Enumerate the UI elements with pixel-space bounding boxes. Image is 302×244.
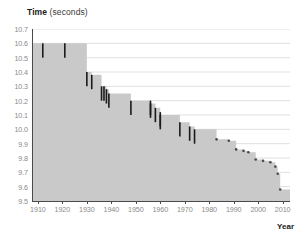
- y-axis-tick-label: 10.7: [2, 25, 28, 34]
- record-progression-chart: [33, 29, 290, 201]
- record-point: [274, 165, 277, 168]
- y-axis-tick-label: 10.1: [2, 111, 28, 120]
- chart-title-bold: Time: [27, 7, 47, 17]
- x-axis-tick-mark: [283, 201, 284, 204]
- y-axis-tick-label: 10.3: [2, 82, 28, 91]
- x-axis-tick-mark: [234, 201, 235, 204]
- record-point: [235, 148, 238, 151]
- y-axis-tick-label: 9.7: [2, 168, 28, 177]
- y-axis-tick-label: 10.6: [2, 39, 28, 48]
- y-axis-tick-label: 9.9: [2, 139, 28, 148]
- x-axis-tick-mark: [209, 201, 210, 204]
- record-point: [247, 151, 250, 154]
- y-axis-tick-label: 10.5: [2, 53, 28, 62]
- x-axis-tick-mark: [87, 201, 88, 204]
- x-axis-tick-mark: [258, 201, 259, 204]
- record-point: [228, 140, 231, 143]
- chart-title-units: (seconds): [47, 7, 88, 17]
- record-point: [269, 161, 272, 164]
- x-axis-tick-mark: [160, 201, 161, 204]
- x-axis-tick-mark: [62, 201, 63, 204]
- plot-area: [33, 29, 290, 201]
- record-point: [276, 172, 279, 175]
- y-axis-tick-label: 9.8: [2, 154, 28, 163]
- y-axis-tick-label: 9.6: [2, 182, 28, 191]
- chart-title: Time (seconds): [27, 7, 88, 17]
- area-fill: [33, 43, 290, 201]
- x-axis-tick-mark: [136, 201, 137, 204]
- record-point: [242, 150, 245, 153]
- y-axis-line: [32, 29, 33, 201]
- y-axis-tick-label: 10.0: [2, 125, 28, 134]
- x-axis-tick-mark: [111, 201, 112, 204]
- y-axis-tick-label: 10.2: [2, 96, 28, 105]
- record-point: [215, 138, 218, 141]
- x-axis-tick-mark: [38, 201, 39, 204]
- record-point: [262, 160, 265, 163]
- x-axis-tick-mark: [185, 201, 186, 204]
- record-point: [279, 188, 282, 191]
- record-point: [254, 158, 257, 161]
- x-axis-tick-label: 2010: [268, 205, 298, 214]
- chart-page: Time (seconds) 10.710.610.510.410.310.21…: [0, 0, 302, 244]
- x-axis-label: Year: [277, 222, 294, 231]
- y-axis-tick-label: 10.4: [2, 68, 28, 77]
